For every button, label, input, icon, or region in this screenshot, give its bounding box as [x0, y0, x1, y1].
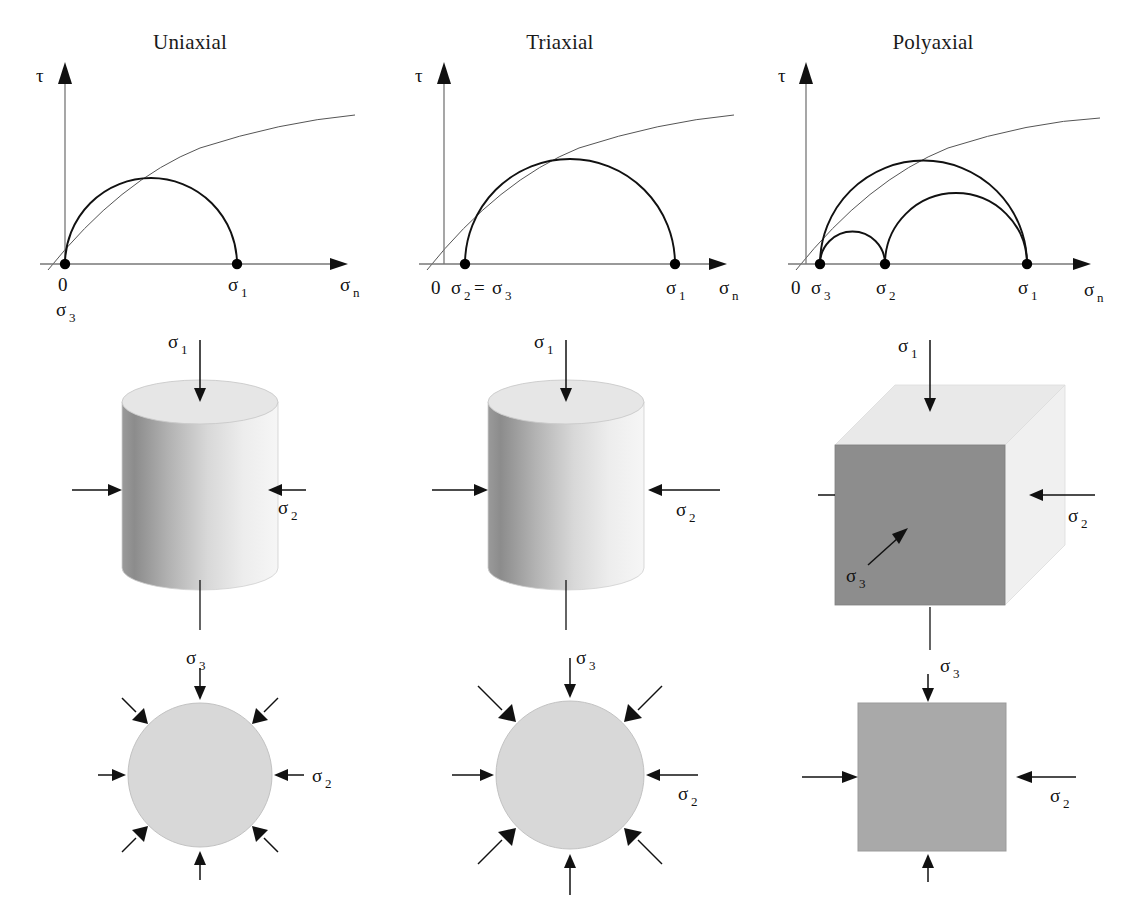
section-circle-uniaxial: [128, 703, 272, 847]
tau-axis-label: τ: [415, 65, 423, 86]
sigma3-label-section-uniaxial: σ: [186, 647, 196, 668]
sigma-n-axis-arrowhead: [330, 258, 348, 270]
arrow-bottom-head-uniaxial: [194, 851, 206, 865]
tau-axis-arrowhead: [58, 62, 72, 84]
sigma3-label-section-triaxial: σ: [576, 647, 586, 668]
sigma3-sub-polyaxial: 3: [824, 288, 831, 303]
mohr-circle-uniaxial-1: [65, 178, 237, 264]
arrow-bottom-head-triaxial: [564, 854, 576, 868]
arrow-bottom-head-polyaxial: [922, 854, 934, 868]
column-title-triaxial: Triaxial: [480, 30, 640, 55]
arrow-ne-line-uniaxial: [264, 698, 278, 712]
sigma1-sub-polyaxial: 1: [1031, 288, 1038, 303]
mohr-diagram-polyaxial: τ 0 σ 3 σ 2 σ 1 σ n: [748, 60, 1128, 310]
sigma1-label-specimen-triaxial: σ: [534, 331, 544, 352]
sigma3-label-uniaxial: σ: [56, 299, 66, 320]
mohr-circle-polyaxial-sigma2-sigma1: [885, 193, 1027, 264]
tau-axis-arrowhead: [799, 62, 813, 84]
tau-axis-label: τ: [36, 65, 44, 86]
point-sigma3-polyaxial: [815, 259, 825, 269]
sigma3-arrow-top-head-triaxial: [564, 684, 576, 698]
origin-label-triaxial: 0: [431, 277, 441, 298]
arrow-ne-head-triaxial: [624, 704, 642, 722]
sigma1-sub-specimen-triaxial: 1: [547, 342, 554, 357]
sigma2-label-section-triaxial: σ: [678, 783, 688, 804]
point-sigma1-triaxial: [670, 259, 680, 269]
sigma2-sub-section-uniaxial: 2: [325, 776, 332, 791]
arrow-sw-line-uniaxial: [122, 838, 136, 852]
sigma-n-sub-triaxial: n: [732, 288, 739, 303]
sigma2-arrow-right-head-triaxial: [648, 484, 662, 496]
sigma2-arrow-left-head-uniaxial: [108, 484, 122, 496]
sigma3-sub-uniaxial: 3: [69, 310, 76, 325]
sigma3-arrow-top-head-polyaxial: [922, 688, 934, 702]
arrow-se-line-uniaxial: [264, 838, 278, 852]
section-polyaxial-square: σ 3 σ 2: [800, 650, 1128, 909]
point-sigma3-uniaxial: [60, 259, 70, 269]
point-sigma1-polyaxial: [1022, 259, 1032, 269]
sigma2-arrow-right-head-polyaxial: [1016, 771, 1032, 783]
arrow-nw-line-uniaxial: [122, 698, 136, 712]
sigma3-sub-specimen-polyaxial: 3: [859, 576, 866, 591]
sigma3-label-triaxial: σ: [492, 277, 502, 298]
arrow-sw-head-triaxial: [498, 828, 516, 846]
mohr-circle-polyaxial-sigma3-sigma2: [820, 232, 885, 264]
mohr-diagram-uniaxial: τ 0 σ 3 σ 1 σ n: [0, 60, 380, 310]
sigma2-label-section-uniaxial: σ: [312, 765, 322, 786]
sigma2-label-polyaxial: σ: [876, 277, 886, 298]
sigma1-sub-specimen-polyaxial: 1: [911, 346, 918, 361]
sigma-n-label-polyaxial: σ: [1084, 279, 1094, 300]
sigma3-sub-section-uniaxial: 3: [199, 658, 206, 673]
sigma1-label-uniaxial: σ: [228, 274, 238, 295]
sigma2-arrow-right-head-uniaxial: [274, 769, 288, 781]
specimen-triaxial-cylinder: σ 1 σ 2: [430, 330, 760, 650]
origin-label-uniaxial: 0: [58, 274, 68, 295]
sigma1-sub-specimen-uniaxial: 1: [181, 342, 188, 357]
sigma3-label-section-polyaxial: σ: [940, 655, 950, 676]
tau-axis-label: τ: [778, 65, 786, 86]
sigma2-sub-specimen-polyaxial: 2: [1081, 516, 1088, 531]
mohr-circle-polyaxial-sigma3-sigma1: [820, 161, 1027, 265]
point-sigma2-polyaxial: [880, 259, 890, 269]
sigma2-label-specimen-polyaxial: σ: [1068, 505, 1078, 526]
point-sigma1-uniaxial: [232, 259, 242, 269]
specimen-uniaxial-cylinder: σ 1 σ 2: [60, 330, 380, 650]
sigma-n-sub-uniaxial: n: [353, 285, 360, 300]
cylinder-body: [122, 402, 278, 590]
equality-sign-triaxial: =: [474, 277, 485, 298]
sigma2-arrow-right-head-triaxial: [646, 769, 660, 781]
point-sigma23-triaxial: [460, 259, 470, 269]
sigma2-sub-triaxial: 2: [464, 288, 471, 303]
failure-envelope-triaxial: [427, 115, 734, 270]
section-circle-triaxial: [496, 701, 644, 849]
sigma1-sub-uniaxial: 1: [241, 285, 248, 300]
sigma2-sub-polyaxial: 2: [889, 288, 896, 303]
sigma1-label-triaxial: σ: [666, 277, 676, 298]
sigma2-sub-specimen-triaxial: 2: [689, 510, 696, 525]
sigma-n-axis-arrowhead: [709, 258, 727, 270]
arrow-nw-line-triaxial: [478, 686, 502, 710]
sigma2-sub-specimen-uniaxial: 2: [291, 508, 298, 523]
sigma2-sub-section-polyaxial: 2: [1063, 796, 1070, 811]
sigma2-label-specimen-triaxial: σ: [676, 499, 686, 520]
failure-envelope-uniaxial: [48, 115, 355, 270]
section-uniaxial-circle: σ 3 σ 2: [60, 650, 380, 909]
section-square-polyaxial: [858, 703, 1006, 851]
sigma-n-axis-arrowhead: [1073, 258, 1091, 270]
figure-root: Uniaxial Triaxial Polyaxial τ 0 σ 3 σ 1: [0, 0, 1128, 909]
column-title-uniaxial: Uniaxial: [110, 30, 270, 55]
mohr-diagram-triaxial: τ 0 σ 2 = σ 3 σ 1 σ n: [379, 60, 759, 310]
sigma2-label-triaxial: σ: [451, 277, 461, 298]
arrow-left-head-polyaxial: [842, 771, 858, 783]
sigma2-arrow-left-head-triaxial: [474, 484, 488, 496]
sigma3-sub-section-triaxial: 3: [589, 658, 596, 673]
sigma-n-sub-polyaxial: n: [1097, 290, 1104, 305]
arrow-nw-head-triaxial: [498, 704, 516, 722]
mohr-circle-triaxial-1: [465, 159, 675, 264]
specimen-polyaxial-cube: σ 1 σ 2 σ 3: [800, 330, 1128, 650]
arrow-ne-line-triaxial: [638, 686, 662, 710]
tau-axis-arrowhead: [437, 62, 451, 84]
arrow-se-line-triaxial: [638, 840, 662, 864]
sigma3-label-polyaxial: σ: [811, 277, 821, 298]
column-title-polyaxial: Polyaxial: [848, 30, 1018, 55]
